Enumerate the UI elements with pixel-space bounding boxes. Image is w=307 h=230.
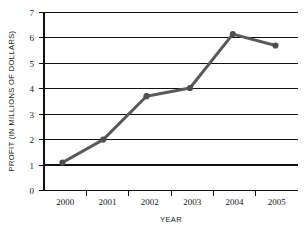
x-tick-label-2004: 2004 <box>226 197 245 207</box>
x-tick-label-2005: 2005 <box>268 197 287 207</box>
y-axis-title: PROFIT (IN MILLIONS OF DOLLARS) <box>7 30 16 171</box>
data-point-2002 <box>143 93 149 99</box>
y-tick-label-2: 2 <box>30 135 35 145</box>
x-tick-label-2000: 2000 <box>56 197 75 207</box>
y-tick-label-0: 0 <box>30 186 35 196</box>
y-tick-label-3: 3 <box>30 110 35 120</box>
data-point-2004 <box>230 31 236 37</box>
chart-background <box>0 0 307 230</box>
y-tick-label-5: 5 <box>30 59 35 69</box>
data-point-2003 <box>187 85 193 91</box>
x-tick-label-2003: 2003 <box>183 197 202 207</box>
data-point-2001 <box>100 137 106 143</box>
x-tick-label-2002: 2002 <box>141 197 159 207</box>
line-chart-figure: 0 1 2 3 4 5 6 7 2000 2001 2002 2003 2004… <box>0 0 307 230</box>
x-axis-title: YEAR <box>160 215 182 224</box>
y-tick-label-4: 4 <box>30 84 35 94</box>
y-tick-label-6: 6 <box>30 33 35 43</box>
data-point-2005 <box>272 42 278 48</box>
data-point-2000 <box>59 159 65 165</box>
x-tick-label-2001: 2001 <box>99 197 117 207</box>
chart-canvas: 0 1 2 3 4 5 6 7 2000 2001 2002 2003 2004… <box>0 0 307 230</box>
y-tick-label-1: 1 <box>30 161 35 171</box>
y-tick-label-7: 7 <box>30 8 35 18</box>
